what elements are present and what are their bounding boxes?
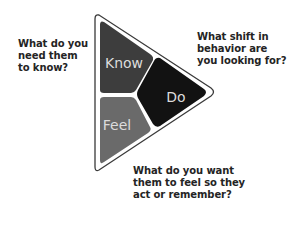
label-feel: Feel	[103, 117, 131, 133]
label-know: Know	[105, 55, 143, 71]
question-feel-line: What do you want	[133, 165, 245, 177]
question-feel-line: act or remember?	[133, 189, 245, 201]
question-feel-line: them to feel so they	[133, 177, 245, 189]
question-do-line: behavior are	[197, 43, 286, 55]
question-do-line: What shift in	[197, 31, 286, 43]
question-know-line: What do you	[18, 38, 88, 50]
question-know-line: to know?	[18, 62, 88, 74]
question-know: What do you need them to know?	[18, 38, 88, 74]
question-do-line: you looking for?	[197, 55, 286, 67]
question-feel: What do you want them to feel so they ac…	[133, 165, 245, 201]
label-do: Do	[166, 89, 185, 105]
question-know-line: need them	[18, 50, 88, 62]
question-do: What shift in behavior are you looking f…	[197, 31, 286, 67]
